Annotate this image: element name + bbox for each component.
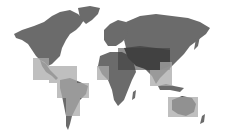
highlight-caribbean [49,66,77,83]
world-map-svg [0,0,226,140]
world-map: World map with highlighted regions [0,0,226,140]
highlight-west-africa [97,66,109,80]
north-america [14,10,84,66]
new-zealand [200,114,205,124]
highlight-australia [168,97,198,117]
highlight-south-asia [150,70,160,86]
highlight-mexico [33,58,49,80]
madagascar [132,90,136,100]
highlight-southeast-asia [160,62,172,86]
highlight-south-south-america [66,98,80,116]
highlight-north-south-america [57,83,89,98]
